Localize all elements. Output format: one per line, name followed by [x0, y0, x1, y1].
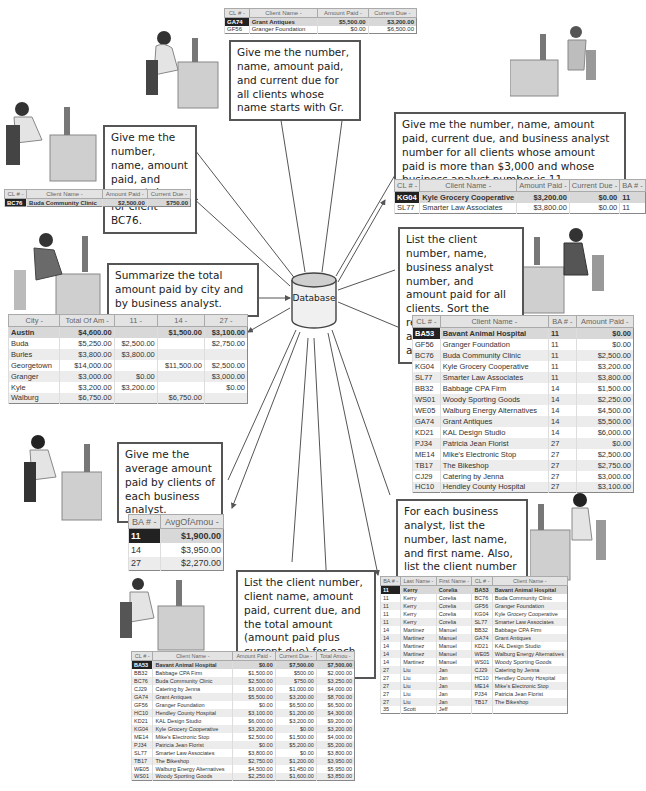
table-row[interactable]: BA53Bavant Animal Hospital11$0.00: [413, 328, 634, 339]
table-row[interactable]: GF56Granger Foundation$0.00$6,500.00$6,5…: [132, 701, 355, 709]
column-header[interactable]: Client Name -: [440, 316, 548, 328]
table-row[interactable]: SL77Smarter Law Associates$3,800.00$0.00…: [132, 749, 355, 757]
table-row[interactable]: GF56Granger Foundation11$0.00: [413, 339, 634, 350]
table-row[interactable]: PJ34Patricia Jean Florist$0.00$5,200.00$…: [132, 741, 355, 749]
table-row[interactable]: CJ29Catering by Jenna27$3,000.00: [413, 471, 634, 482]
result-table-total: CL # - Client Name - Amount Paid - Curre…: [131, 651, 355, 781]
column-header[interactable]: Amount Paid -: [318, 9, 368, 18]
table-row[interactable]: 14MartinezManuelGA74Grant Antiques: [381, 634, 568, 642]
table-row[interactable]: 11KerryCoreliaSL77Smarter Law Associates: [381, 618, 568, 626]
column-header[interactable]: 11 -: [114, 315, 157, 327]
column-header[interactable]: CL # -: [472, 577, 492, 586]
table-row[interactable]: Buda$5,250.00$2,500.00$2,750.00: [9, 338, 248, 349]
table-row[interactable]: Granger$3,000.00$0.00$3,000.00: [9, 371, 248, 382]
table-row[interactable]: WE05Walburg Energy Alternatives$4,500.00…: [132, 765, 355, 773]
table-row[interactable]: KG04Kyle Grocery Cooperative$3,200.00$0.…: [132, 725, 355, 733]
table-row[interactable]: 27LiuJanPJ34Patricia Jean Florist: [381, 690, 568, 698]
table-row[interactable]: 27LiuJanHC10Hendley County Hospital: [381, 674, 568, 682]
column-header[interactable]: Client Name -: [249, 9, 318, 18]
column-header[interactable]: Amount Paid -: [102, 190, 147, 199]
column-header[interactable]: Total Of Am -: [60, 315, 114, 327]
column-header[interactable]: Current Due -: [275, 652, 316, 661]
column-header[interactable]: Client Name -: [153, 652, 233, 661]
table-row[interactable]: 14$3,950.00: [129, 543, 224, 557]
column-header[interactable]: CL # -: [413, 316, 441, 328]
column-header[interactable]: Client Name -: [27, 190, 103, 199]
query-text-bc76: Give me the number, name, amount paid, a…: [103, 125, 197, 234]
table-row[interactable]: HC10Hendley County Hospital$3,100.00$1,2…: [132, 709, 355, 717]
table-row[interactable]: WS01Woody Sporting Goods14$2,250.00: [413, 394, 634, 405]
column-header[interactable]: BA # -: [549, 316, 577, 328]
table-row[interactable]: Burles$3,800.00$3,800.00: [9, 349, 248, 360]
table-row[interactable]: KD21KAL Design Studio14$6,000.00: [413, 427, 634, 438]
column-header[interactable]: Amount Paid -: [232, 652, 275, 661]
column-header[interactable]: CL # -: [225, 9, 250, 18]
table-row[interactable]: BA53Bavant Animal Hospital$0.00$7,500.00…: [132, 661, 355, 669]
column-header[interactable]: Current Due -: [569, 180, 619, 192]
table-row[interactable]: 27$2,270.00: [129, 557, 224, 571]
table-row[interactable]: 11$1,900.00: [129, 529, 224, 543]
table-row[interactable]: BB32Babbage CPA Firm14$1,500.00: [413, 383, 634, 394]
table-row[interactable]: PJ34Patricia Jean Florist27$0.00: [413, 438, 634, 449]
column-header[interactable]: BA # -: [129, 515, 161, 529]
table-row[interactable]: 27LiuJanTB17The Bikeshop: [381, 698, 568, 706]
table-row[interactable]: BC76Buda Community Clinic11$2,500.00: [413, 350, 634, 361]
column-header[interactable]: First Name -: [436, 577, 472, 586]
table-row[interactable]: CJ29Catering by Jenna$3,000.00$1,000.00$…: [132, 685, 355, 693]
column-header[interactable]: Total Amou -: [316, 652, 354, 661]
column-header[interactable]: Amount Paid -: [517, 180, 570, 192]
table-row[interactable]: 11KerryCoreliaGF56Granger Foundation: [381, 602, 568, 610]
table-row[interactable]: TB17The Bikeshop$2,750.00$1,200.00$3,950…: [132, 757, 355, 765]
column-header[interactable]: CL # -: [5, 190, 27, 199]
table-row[interactable]: BB32Babbage CPA Firm$1,500.00$500.00$2,0…: [132, 669, 355, 677]
table-row[interactable]: GA74Grant Antiques14$5,500.00: [413, 416, 634, 427]
table-row[interactable]: SL77 Smarter Law Associates $3,800.00 $0…: [395, 203, 646, 214]
table-row[interactable]: 14MartinezManuelKD21KAL Design Studio: [381, 642, 568, 650]
column-header[interactable]: BA # -: [381, 577, 401, 586]
table-row[interactable]: Walburg$6,750.00$6,750.00: [9, 393, 248, 404]
table-row[interactable]: WE05Walburg Energy Alternatives14$4,500.…: [413, 405, 634, 416]
table-row[interactable]: WS01Woody Sporting Goods$2,250.00$1,600.…: [132, 773, 355, 781]
query-text-gr: Give me the number, name, amount paid, a…: [229, 40, 361, 121]
table-row[interactable]: KG04Kyle Grocery Cooperative11$3,200.00: [413, 361, 634, 372]
person-at-desk-icon: [520, 225, 615, 320]
table-row[interactable]: BC76 Buda Community Clinic $2,500.00 $75…: [5, 199, 191, 207]
table-row[interactable]: HC10Hendley County Hospital27$3,100.00: [413, 482, 634, 493]
table-row[interactable]: 27LiuJanME14Mike's Electronic Stop: [381, 682, 568, 690]
table-row[interactable]: Austin$4,600.00$1,500.00$3,100.00: [9, 327, 248, 338]
column-header[interactable]: 14 -: [157, 315, 204, 327]
table-row[interactable]: 14MartinezManuelBB32Babbage CPA Firm: [381, 626, 568, 634]
table-row[interactable]: GA74 Grant Antiques $5,500.00 $3,200.00: [225, 18, 417, 26]
table-row[interactable]: GF56 Granger Foundation $0.00 $6,500.00: [225, 26, 417, 34]
table-row[interactable]: Kyle$3,200.00$3,200.00$0.00: [9, 382, 248, 393]
column-header[interactable]: Last Name -: [401, 577, 436, 586]
table-row[interactable]: TB17The Bikeshop27$2,750.00: [413, 460, 634, 471]
column-header[interactable]: Amount Paid -: [576, 316, 633, 328]
column-header[interactable]: 27 -: [204, 315, 247, 327]
table-row[interactable]: 35ScottJeff: [381, 706, 568, 714]
column-header[interactable]: Client Name -: [492, 577, 567, 586]
table-row[interactable]: BC76Buda Community Clinic$2,500.00$750.0…: [132, 677, 355, 685]
column-header[interactable]: AvgOfAmou -: [160, 515, 223, 529]
table-row[interactable]: GA74Grant Antiques$5,500.00$3,200.00$8,7…: [132, 693, 355, 701]
table-row[interactable]: KG04 Kyle Grocery Cooperative $3,200.00 …: [395, 192, 646, 203]
table-row[interactable]: 11KerryCoreliaBC76Buda Community Clinic: [381, 594, 568, 602]
table-row[interactable]: KD21KAL Design Studio$6,000.00$3,200.00$…: [132, 717, 355, 725]
table-row[interactable]: 14MartinezManuelWE05Walburg Energy Alter…: [381, 650, 568, 658]
column-header[interactable]: Client Name -: [420, 180, 517, 192]
table-row[interactable]: Georgetown$14,000.00$11,500.00$2,500.00: [9, 360, 248, 371]
table-row[interactable]: SL77Smarter Law Associates11$3,800.00: [413, 372, 634, 383]
table-row[interactable]: 11KerryCoreliaKG04Kyle Grocery Cooperati…: [381, 610, 568, 618]
table-row[interactable]: 14MartinezManuelWS01Woody Sporting Goods: [381, 658, 568, 666]
column-header[interactable]: Current Due -: [147, 190, 190, 199]
column-header[interactable]: CL # -: [132, 652, 153, 661]
database-label: Database: [290, 293, 338, 303]
column-header[interactable]: BA # -: [620, 180, 645, 192]
table-row[interactable]: ME14Mike's Electronic Stop27$2,500.00: [413, 449, 634, 460]
table-row[interactable]: 27LiuJanCJ29Catering by Jenna: [381, 666, 568, 674]
column-header[interactable]: Current Due -: [368, 9, 416, 18]
table-row[interactable]: 11KerryCoreliaBA53Bavant Animal Hospital: [381, 586, 568, 594]
column-header[interactable]: CL # -: [395, 180, 420, 192]
table-row[interactable]: ME14Mike's Electronic Stop$2,500.00$1,50…: [132, 733, 355, 741]
column-header[interactable]: City -: [9, 315, 60, 327]
